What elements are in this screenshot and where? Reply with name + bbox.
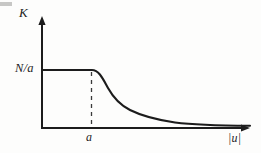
- x-tick-label-a: a: [86, 131, 92, 143]
- y-tick-label-N-over-a: N/a: [15, 62, 34, 75]
- data-curve-K: [42, 70, 250, 126]
- figure-container: K N/a a |u|: [0, 0, 261, 153]
- y-axis-arrowhead-icon: [38, 16, 45, 25]
- y-axis-title: K: [19, 6, 28, 19]
- x-axis-title: |u|: [228, 132, 241, 144]
- plot-canvas: [0, 0, 261, 153]
